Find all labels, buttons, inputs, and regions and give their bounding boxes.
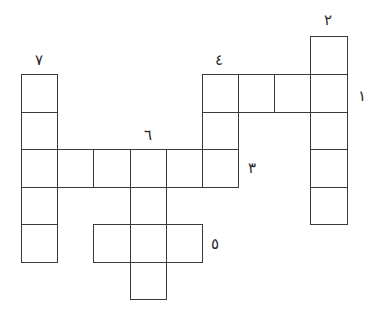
crossword-cell[interactable] (202, 149, 239, 188)
clue-number-5: ٥ (211, 237, 219, 252)
crossword-cell[interactable] (21, 224, 58, 263)
clue-number-1: ١ (358, 89, 366, 104)
crossword-cell[interactable] (21, 112, 58, 150)
crossword-cell[interactable] (130, 187, 167, 225)
crossword-cell[interactable] (166, 224, 203, 263)
crossword-grid: ١٢٣٤٥٦٧ (0, 0, 376, 315)
crossword-cell[interactable] (130, 224, 167, 263)
crossword-cell[interactable] (202, 112, 239, 150)
crossword-cell[interactable] (238, 74, 275, 113)
clue-number-3: ٣ (248, 161, 256, 176)
crossword-cell[interactable] (202, 74, 239, 113)
clue-number-4: ٤ (215, 53, 223, 68)
crossword-cell[interactable] (130, 149, 167, 188)
crossword-cell[interactable] (21, 74, 58, 113)
crossword-cell[interactable] (310, 187, 348, 225)
crossword-cell[interactable] (310, 149, 348, 188)
crossword-cell[interactable] (57, 149, 94, 188)
clue-number-6: ٦ (144, 128, 152, 143)
clue-number-2: ٢ (324, 13, 332, 28)
crossword-cell[interactable] (310, 112, 348, 150)
crossword-cell[interactable] (310, 74, 348, 113)
crossword-cell[interactable] (130, 262, 167, 300)
crossword-cell[interactable] (93, 149, 131, 188)
clue-number-7: ٧ (35, 53, 43, 68)
crossword-cell[interactable] (93, 224, 131, 263)
crossword-cell[interactable] (21, 187, 58, 225)
crossword-cell[interactable] (21, 149, 58, 188)
crossword-cell[interactable] (274, 74, 311, 113)
crossword-cell[interactable] (310, 36, 348, 75)
crossword-cell[interactable] (166, 149, 203, 188)
